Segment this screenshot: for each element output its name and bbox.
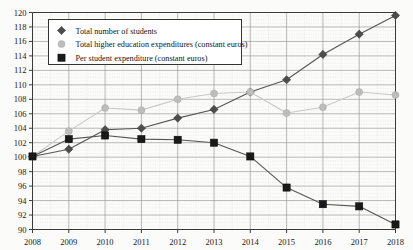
y-axis-tick-label: 112 <box>14 65 26 75</box>
data-point-marker <box>102 132 109 139</box>
data-point-marker <box>102 104 109 111</box>
y-axis-tick-label: 118 <box>14 22 26 32</box>
x-axis-tick-label: 2008 <box>24 237 41 247</box>
data-point-marker <box>174 96 181 103</box>
data-point-marker <box>392 91 399 98</box>
data-point-marker <box>210 139 217 146</box>
data-point-marker <box>283 76 291 84</box>
y-axis-tick-label: 92 <box>18 210 27 220</box>
legend-label: Per student expenditure (constant euros) <box>76 54 208 63</box>
x-axis-tick-label: 2010 <box>97 237 114 247</box>
data-point-marker <box>355 30 363 38</box>
data-point-marker <box>210 105 218 113</box>
x-axis-tick-label: 2013 <box>206 237 223 247</box>
y-axis-tick-label: 98 <box>18 167 27 177</box>
y-axis-tick-label: 120 <box>14 8 27 18</box>
chart-canvas: 9092949698100102104106108110112114116118… <box>0 0 413 250</box>
data-point-marker <box>283 184 290 191</box>
y-axis-tick-label: 108 <box>14 94 27 104</box>
legend-label: Total number of students <box>76 27 158 36</box>
x-axis-tick-label: 2017 <box>351 237 368 247</box>
x-axis-tick-label: 2016 <box>314 237 331 247</box>
data-point-marker <box>138 135 145 142</box>
x-axis-tick-label: 2014 <box>242 237 260 247</box>
y-axis-tick-label: 102 <box>14 138 27 148</box>
x-axis-labels: 2008200920102011201220132014201520162017… <box>24 237 404 247</box>
y-axis-tick-label: 114 <box>14 51 27 61</box>
data-point-marker <box>138 107 145 114</box>
data-point-marker <box>174 136 181 143</box>
chart-legend: Total number of studentsTotal higher edu… <box>49 20 248 65</box>
y-axis-tick-label: 100 <box>14 152 27 162</box>
data-point-marker <box>247 153 254 160</box>
x-axis-tick-label: 2009 <box>60 237 77 247</box>
y-axis-tick-label: 96 <box>18 181 27 191</box>
data-point-marker <box>283 110 290 117</box>
data-point-marker <box>211 90 218 97</box>
data-point-marker <box>247 89 254 96</box>
data-point-marker <box>29 153 36 160</box>
data-point-marker <box>65 128 72 135</box>
y-axis-tick-label: 90 <box>18 225 27 235</box>
x-axis-tick-label: 2018 <box>387 237 404 247</box>
x-axis-tick-label: 2012 <box>169 237 186 247</box>
legend-label: Total higher education expenditures (con… <box>76 40 248 49</box>
y-axis-tick-label: 94 <box>18 196 27 206</box>
x-axis-tick-label: 2011 <box>133 237 150 247</box>
data-point-marker <box>319 201 326 208</box>
data-point-marker <box>319 104 326 111</box>
data-point-marker <box>58 54 65 61</box>
data-point-marker <box>392 221 399 228</box>
data-point-marker <box>58 41 65 48</box>
data-point-marker <box>137 124 145 132</box>
line-chart: 9092949698100102104106108110112114116118… <box>0 0 413 250</box>
data-point-marker <box>319 50 327 58</box>
y-axis-tick-label: 106 <box>14 109 27 119</box>
y-axis-tick-label: 116 <box>14 36 26 46</box>
y-axis-tick-label: 104 <box>14 123 28 133</box>
data-point-marker <box>356 89 363 96</box>
data-point-marker <box>65 135 72 142</box>
x-axis-tick-label: 2015 <box>278 237 295 247</box>
y-axis-labels: 9092949698100102104106108110112114116118… <box>14 8 28 235</box>
data-point-marker <box>356 203 363 210</box>
y-axis-tick-label: 110 <box>14 80 26 90</box>
